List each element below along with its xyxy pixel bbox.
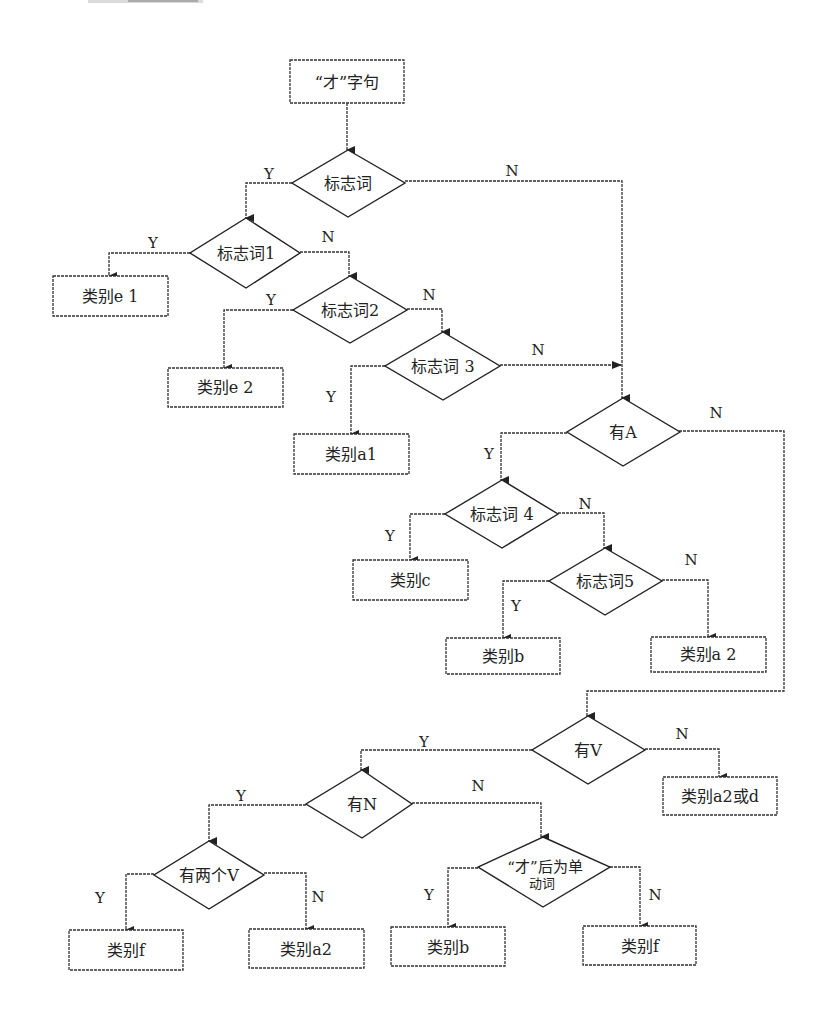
edge-dN-yes	[209, 805, 306, 841]
label-d2V-no: N	[311, 888, 324, 906]
label-dN-no: N	[471, 777, 484, 795]
edge-d2-yes	[224, 310, 293, 368]
decision-dN: 有N	[306, 770, 412, 838]
outcome-b2: 类别b	[391, 927, 505, 966]
outcome-f2: 类别f	[583, 926, 696, 965]
outcome-e2: 类别e 2	[168, 368, 283, 407]
decision-d2-label: 标志词2	[321, 301, 379, 320]
label-dA-no: N	[709, 404, 722, 422]
outcome-c: 类别c	[353, 560, 468, 600]
decision-d2: 标志词2	[293, 276, 407, 343]
outcome-a2d-label: 类别a2或d	[681, 787, 759, 806]
decision-d1: 标志词1	[190, 218, 300, 288]
outcome-c-label: 类别c	[390, 571, 431, 590]
edge-d2-no	[407, 309, 442, 332]
decision-d4-label: 标志词 4	[470, 505, 533, 524]
outcome-e1-label: 类别e 1	[82, 287, 139, 306]
outcome-f1: 类别f	[69, 930, 183, 970]
label-d0-no: N	[505, 162, 518, 180]
decision-dA: 有A	[567, 398, 680, 466]
outcome-f2-label: 类别f	[621, 937, 660, 956]
outcome-e2-label: 类别e 2	[197, 378, 254, 397]
outcome-b2-label: 类别b	[427, 938, 469, 957]
edge-dV-yes	[361, 750, 532, 770]
edge-d2V-yes	[126, 874, 154, 930]
decision-d5-label: 标志词5	[576, 572, 634, 591]
decision-d0: 标志词	[292, 150, 405, 217]
decision-dSingle-label-line1: “才”后为单	[507, 858, 582, 876]
label-d1-no: N	[321, 228, 334, 246]
start-node: “才”字句	[290, 60, 404, 103]
outcome-a2-2-label: 类别a2	[280, 940, 332, 959]
branch-labels: Y N Y N Y N Y N Y N Y N Y N Y N Y N Y N …	[94, 162, 723, 907]
edge-d5-no	[662, 580, 708, 637]
edge-d1-no	[300, 252, 349, 276]
decision-dA-label: 有A	[609, 423, 637, 442]
outcome-f1-label: 类别f	[107, 941, 146, 960]
label-d2-no: N	[422, 286, 435, 304]
edge-dV-no	[645, 749, 719, 777]
outcome-a1: 类别a1	[294, 434, 409, 474]
label-dSingle-yes: Y	[423, 886, 435, 904]
decision-dV-label: 有V	[574, 741, 602, 760]
label-d0-yes: Y	[263, 165, 275, 183]
label-dV-yes: Y	[418, 733, 430, 751]
edge-d5-yes	[503, 581, 549, 638]
label-d3-no: N	[531, 341, 544, 359]
outcome-b1-label: 类别b	[482, 647, 524, 666]
decision-dV: 有V	[532, 716, 645, 784]
outcome-a1-label: 类别a1	[325, 445, 377, 464]
outcome-a2-1: 类别a 2	[651, 637, 766, 672]
label-dSingle-no: N	[648, 886, 661, 904]
edge-dSingle-no	[610, 867, 640, 926]
outcome-a2d: 类别a2或d	[663, 777, 777, 815]
edge-d2V-no	[264, 873, 306, 929]
decision-d5: 标志词5	[549, 548, 662, 615]
decision-d4: 标志词 4	[445, 480, 558, 548]
decision-d2V: 有两个V	[154, 841, 264, 909]
label-d4-no: N	[578, 495, 591, 513]
label-d4-yes: Y	[384, 527, 396, 545]
decision-d0-label: 标志词	[324, 174, 372, 193]
decision-dSingle-label-line2: 动词	[529, 876, 555, 891]
edge-d4-no	[558, 513, 604, 548]
decision-d3-label: 标志词 3	[411, 357, 474, 376]
edge-d3-yes	[351, 366, 385, 434]
decision-d1-label: 标志词1	[217, 244, 275, 263]
edge-d1-yes	[109, 253, 190, 276]
flowchart: “才”字句 标志词 标志词1 标志词2 标志词 3 有A 标志词 4 标志词5 …	[0, 0, 828, 1032]
label-d3-yes: Y	[325, 388, 337, 406]
start-label: “才”字句	[315, 73, 379, 92]
edge-d4-yes	[410, 514, 445, 560]
label-d5-no: N	[684, 551, 697, 569]
edge-dA-yes	[501, 433, 567, 480]
edge-dN-no	[412, 803, 541, 837]
decision-d2V-label: 有两个V	[179, 866, 239, 885]
decision-d3: 标志词 3	[385, 332, 500, 400]
label-dN-yes: Y	[235, 787, 247, 805]
outcome-a2-2: 类别a2	[249, 929, 364, 968]
label-dA-yes: Y	[483, 445, 495, 463]
label-d2V-yes: Y	[94, 889, 106, 907]
outcome-e1: 类别e 1	[53, 276, 168, 316]
outcome-b1: 类别b	[446, 638, 560, 674]
decision-dSingle: “才”后为单 动词	[478, 837, 610, 907]
label-d2-yes: Y	[265, 291, 277, 309]
decision-dN-label: 有N	[347, 795, 377, 814]
outcome-a2-1-label: 类别a 2	[680, 645, 737, 664]
edge-dSingle-yes	[448, 868, 478, 927]
edge-d0-yes	[246, 183, 292, 218]
label-d1-yes: Y	[147, 234, 159, 252]
label-d5-yes: Y	[510, 597, 522, 615]
label-dV-no: N	[675, 725, 688, 743]
